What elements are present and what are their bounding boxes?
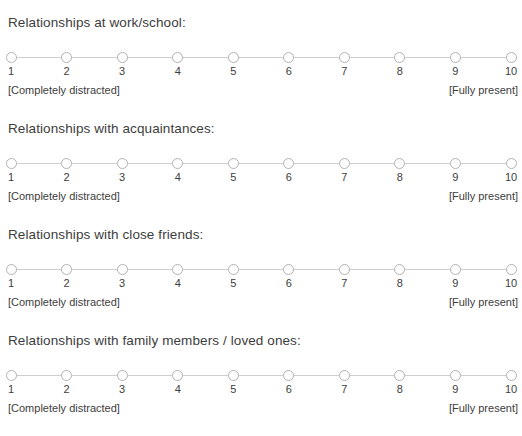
- scale-point-6[interactable]: [283, 370, 294, 381]
- scale-point-7[interactable]: [339, 158, 350, 169]
- scale-point-4[interactable]: [172, 264, 183, 275]
- scale-point-7[interactable]: [339, 52, 350, 63]
- tick-label-9: 9: [435, 64, 475, 78]
- tick-label-4: 4: [158, 382, 198, 396]
- scale-point-3[interactable]: [117, 158, 128, 169]
- tick-label-9: 9: [435, 276, 475, 290]
- tick-label-3: 3: [102, 64, 142, 78]
- rating-scale[interactable]: [0, 44, 522, 64]
- tick-label-10: 10: [491, 382, 522, 396]
- scale-point-10[interactable]: [506, 52, 517, 63]
- question-title: Relationships with acquaintances:: [8, 120, 215, 138]
- scale-point-8[interactable]: [394, 158, 405, 169]
- tick-label-8: 8: [380, 276, 420, 290]
- tick-label-1: 1: [0, 382, 31, 396]
- scale-point-2[interactable]: [61, 370, 72, 381]
- scale-point-4[interactable]: [172, 370, 183, 381]
- scale-tick-labels: 1 2 3 4 5 6 7 8 9 10: [0, 64, 522, 78]
- scale-anchors: [Completely distracted] [Fully present]: [0, 188, 522, 204]
- scale-point-5[interactable]: [228, 52, 239, 63]
- anchor-low-label: [Completely distracted]: [8, 188, 120, 204]
- scale-track: [11, 163, 511, 164]
- scale-point-5[interactable]: [228, 158, 239, 169]
- scale-point-7[interactable]: [339, 264, 350, 275]
- question-title: Relationships with close friends:: [8, 226, 203, 244]
- scale-point-1[interactable]: [6, 52, 17, 63]
- anchor-low-label: [Completely distracted]: [8, 294, 120, 310]
- tick-label-4: 4: [158, 64, 198, 78]
- tick-label-8: 8: [380, 382, 420, 396]
- scale-point-6[interactable]: [283, 264, 294, 275]
- scale-point-1[interactable]: [6, 158, 17, 169]
- tick-label-6: 6: [269, 276, 309, 290]
- scale-point-4[interactable]: [172, 158, 183, 169]
- anchor-low-label: [Completely distracted]: [8, 82, 120, 98]
- scale-point-1[interactable]: [6, 370, 17, 381]
- tick-label-10: 10: [491, 170, 522, 184]
- scale-point-10[interactable]: [506, 370, 517, 381]
- scale-point-6[interactable]: [283, 158, 294, 169]
- scale-point-8[interactable]: [394, 264, 405, 275]
- scale-point-10[interactable]: [506, 264, 517, 275]
- rating-scale[interactable]: [0, 150, 522, 170]
- tick-label-1: 1: [0, 170, 31, 184]
- scale-point-9[interactable]: [450, 52, 461, 63]
- scale-point-1[interactable]: [6, 264, 17, 275]
- tick-label-3: 3: [102, 170, 142, 184]
- scale-track: [11, 375, 511, 376]
- scale-tick-labels: 1 2 3 4 5 6 7 8 9 10: [0, 170, 522, 184]
- tick-label-2: 2: [47, 170, 87, 184]
- tick-label-7: 7: [324, 382, 364, 396]
- tick-label-5: 5: [213, 382, 253, 396]
- anchor-high-label: [Fully present]: [449, 82, 518, 98]
- tick-label-4: 4: [158, 276, 198, 290]
- tick-label-2: 2: [47, 276, 87, 290]
- scale-point-9[interactable]: [450, 370, 461, 381]
- question-block-work-school: Relationships at work/school: 1 2 3 4 5 …: [0, 14, 522, 110]
- scale-tick-labels: 1 2 3 4 5 6 7 8 9 10: [0, 382, 522, 396]
- anchor-low-label: [Completely distracted]: [8, 400, 120, 416]
- anchor-high-label: [Fully present]: [449, 400, 518, 416]
- tick-label-5: 5: [213, 170, 253, 184]
- scale-track: [11, 57, 511, 58]
- scale-point-3[interactable]: [117, 370, 128, 381]
- tick-label-2: 2: [47, 64, 87, 78]
- tick-label-4: 4: [158, 170, 198, 184]
- scale-point-3[interactable]: [117, 264, 128, 275]
- tick-label-6: 6: [269, 170, 309, 184]
- scale-tick-labels: 1 2 3 4 5 6 7 8 9 10: [0, 276, 522, 290]
- scale-point-4[interactable]: [172, 52, 183, 63]
- scale-track: [11, 269, 511, 270]
- question-title: Relationships with family members / love…: [8, 332, 301, 350]
- question-block-family-loved-ones: Relationships with family members / love…: [0, 332, 522, 428]
- scale-point-8[interactable]: [394, 370, 405, 381]
- rating-scale[interactable]: [0, 362, 522, 382]
- tick-label-10: 10: [491, 276, 522, 290]
- scale-point-2[interactable]: [61, 52, 72, 63]
- question-block-acquaintances: Relationships with acquaintances: 1 2 3 …: [0, 120, 522, 216]
- scale-point-5[interactable]: [228, 370, 239, 381]
- tick-label-8: 8: [380, 170, 420, 184]
- scale-point-3[interactable]: [117, 52, 128, 63]
- anchor-high-label: [Fully present]: [449, 294, 518, 310]
- scale-point-5[interactable]: [228, 264, 239, 275]
- scale-point-8[interactable]: [394, 52, 405, 63]
- scale-point-9[interactable]: [450, 264, 461, 275]
- scale-anchors: [Completely distracted] [Fully present]: [0, 82, 522, 98]
- tick-label-2: 2: [47, 382, 87, 396]
- scale-point-2[interactable]: [61, 264, 72, 275]
- tick-label-7: 7: [324, 64, 364, 78]
- scale-point-9[interactable]: [450, 158, 461, 169]
- scale-point-7[interactable]: [339, 370, 350, 381]
- question-block-close-friends: Relationships with close friends: 1 2 3 …: [0, 226, 522, 322]
- anchor-high-label: [Fully present]: [449, 188, 518, 204]
- tick-label-5: 5: [213, 64, 253, 78]
- tick-label-8: 8: [380, 64, 420, 78]
- tick-label-9: 9: [435, 382, 475, 396]
- tick-label-3: 3: [102, 382, 142, 396]
- tick-label-7: 7: [324, 170, 364, 184]
- scale-point-6[interactable]: [283, 52, 294, 63]
- rating-scale[interactable]: [0, 256, 522, 276]
- scale-point-2[interactable]: [61, 158, 72, 169]
- scale-point-10[interactable]: [506, 158, 517, 169]
